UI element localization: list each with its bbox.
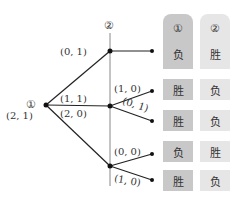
root-label: ① <box>26 99 36 110</box>
result-cell: 负 <box>200 110 230 131</box>
branch-label: (1, 0) <box>114 84 141 94</box>
result-cell: 胜 <box>163 110 193 131</box>
node-bottom <box>108 164 113 169</box>
result-cell: 胜 <box>163 79 193 100</box>
result-cell: 负 <box>200 79 230 100</box>
leaf-node <box>150 49 154 53</box>
branch-label: (0, 1) <box>60 47 87 57</box>
result-cell: 负 <box>200 170 230 191</box>
leaf-node <box>150 178 154 182</box>
edge-root-mid <box>46 105 110 106</box>
leaf-node <box>150 89 154 93</box>
branch-label: (1, 1) <box>60 94 87 104</box>
root-payoff: (2, 1) <box>6 111 33 121</box>
node-mid <box>108 104 113 109</box>
player2-label: ② <box>104 20 114 31</box>
branch-label: (2, 0) <box>60 109 87 119</box>
leaf-node <box>150 119 154 123</box>
result-cell: 胜 <box>210 46 221 62</box>
leaf-node <box>150 152 154 156</box>
node-top <box>108 49 113 54</box>
result-cell: 负 <box>163 141 193 162</box>
result-cell: 胜 <box>163 170 193 191</box>
player2-header: ② <box>210 22 220 35</box>
result-cell: 负 <box>173 46 184 62</box>
root-node <box>44 103 49 108</box>
player1-column: ① 负 <box>163 14 193 69</box>
player1-header: ① <box>173 22 183 35</box>
result-cell: 胜 <box>200 141 230 162</box>
player2-column: ② 胜 <box>200 14 230 69</box>
branch-label: (0, 0) <box>114 147 141 157</box>
